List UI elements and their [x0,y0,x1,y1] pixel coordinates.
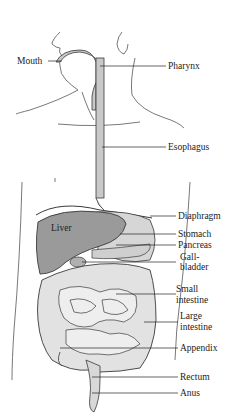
label-diaphragm: Diaphragm [178,211,221,221]
label-esophagus: Esophagus [168,142,209,152]
label-mouth: Mouth [17,56,42,66]
label-gallbladder-line2: bladder [180,262,209,272]
label-rectum: Rectum [180,372,210,382]
label-small-intestine-line2: intestine [176,295,208,305]
label-anus: Anus [180,388,200,398]
label-appendix: Appendix [180,343,217,353]
label-liver: Liver [51,223,72,233]
label-pancreas: Pancreas [178,240,212,250]
oral-cavity [56,50,98,110]
label-small-intestine-line1: Small [176,284,198,294]
label-pharynx: Pharynx [168,61,200,71]
rectum-shape [86,360,100,412]
label-stomach: Stomach [178,229,211,239]
esophagus-shape [96,58,104,198]
label-large-intestine-line1: Large [180,311,202,321]
label-large-intestine-line2: intestine [180,322,212,332]
label-gallbladder-line1: Gall- [180,252,200,262]
